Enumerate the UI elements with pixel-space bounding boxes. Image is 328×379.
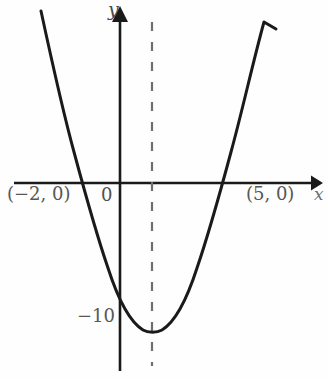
root-left-label: (−2, 0): [7, 185, 70, 203]
origin-label: 0: [101, 186, 112, 204]
root-right-label: (5, 0): [246, 185, 294, 203]
minimum-value-label: −10: [77, 307, 115, 325]
parabola-figure: y x 0 (−2, 0) (5, 0) −10: [0, 0, 328, 379]
parabola-curve: [41, 11, 276, 332]
x-axis-label: x: [314, 186, 324, 203]
y-axis-label: y: [108, 0, 119, 19]
